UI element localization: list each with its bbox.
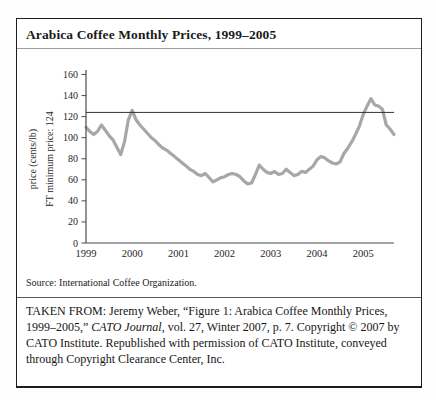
x-tick-label: 2003 xyxy=(260,248,281,259)
y-tick-label: 100 xyxy=(63,132,78,143)
figure-title: Arabica Coffee Monthly Prices, 1999–2005 xyxy=(26,27,276,43)
x-tick-label: 1999 xyxy=(76,248,97,259)
y-tick-label: 60 xyxy=(68,174,78,185)
attribution-text: TAKEN FROM: Jeremy Weber, “Figure 1: Ara… xyxy=(26,303,411,367)
y-tick-label: 120 xyxy=(63,111,78,122)
figure-page: Arabica Coffee Monthly Prices, 1999–2005… xyxy=(0,0,436,400)
y-tick-label: 40 xyxy=(68,195,78,206)
x-tick-label: 2005 xyxy=(353,248,374,259)
y-tick-label: 160 xyxy=(63,69,78,80)
chart-area: 0204060801001201401601999200020012002200… xyxy=(17,48,421,280)
y-axis-subtitle-ft-minimum: FT minimum price: 124 xyxy=(44,111,55,207)
x-tick-label: 2004 xyxy=(307,248,329,259)
price-series-line xyxy=(86,99,394,184)
x-tick-label: 2002 xyxy=(214,248,235,259)
price-line-chart: 0204060801001201401601999200020012002200… xyxy=(17,48,421,280)
y-tick-label: 0 xyxy=(73,238,78,249)
source-note: Source: International Coffee Organizatio… xyxy=(26,277,197,288)
y-axis-title: price (cents/lb) xyxy=(27,129,39,189)
y-tick-label: 20 xyxy=(68,216,78,227)
y-tick-label: 140 xyxy=(63,90,78,101)
x-tick-label: 2001 xyxy=(168,248,189,259)
attribution-journal-italic: CATO Journal xyxy=(91,320,161,334)
attribution-divider xyxy=(17,297,421,298)
x-tick-label: 2000 xyxy=(122,248,143,259)
y-tick-label: 80 xyxy=(68,153,78,164)
figure-box: Arabica Coffee Monthly Prices, 1999–2005… xyxy=(16,18,422,388)
